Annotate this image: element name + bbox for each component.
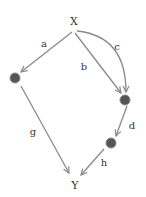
node-y-label: Y <box>70 179 79 192</box>
edge-g-label: g <box>30 126 37 137</box>
node-m1 <box>10 73 20 83</box>
node-x-label: X <box>70 15 78 28</box>
node-m3 <box>106 138 116 148</box>
edge-c-label: c <box>114 41 120 52</box>
edge-g <box>21 86 69 173</box>
edge-a-label: a <box>41 38 47 49</box>
edge-b-label: b <box>81 61 87 72</box>
edge-d-label: d <box>129 120 136 131</box>
edge-d <box>116 106 127 136</box>
node-m2 <box>120 95 130 105</box>
edge-h-label: h <box>101 157 108 168</box>
path-diagram: X Y a b c d g h <box>0 0 146 197</box>
